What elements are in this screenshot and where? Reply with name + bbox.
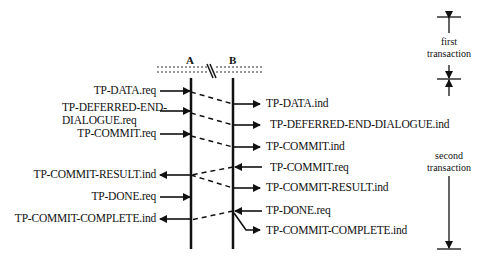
first-transaction-label: first transaction (419, 36, 479, 60)
label-tp-deferred-end-dialogue-ind: TP-DEFERRED-END-DIALOGUE.ind (270, 118, 449, 131)
label-tp-commit-req-right: TP-COMMIT.req (270, 161, 349, 174)
label-tp-data-req: TP-DATA.req (94, 84, 156, 97)
label-tp-done-req-left: TP-DONE.req (91, 190, 156, 203)
label-tp-commit-complete-ind-right: TP-COMMIT-COMPLETE.ind (266, 224, 407, 237)
right-arrows (234, 104, 262, 230)
second-transaction-label: second transaction (419, 150, 479, 174)
label-tp-commit-result-ind-right: TP-COMMIT-RESULT.ind (266, 181, 388, 194)
label-tp-commit-ind: TP-COMMIT.ind (266, 140, 345, 153)
sequence-diagram (0, 0, 486, 268)
label-tp-commit-req-left: TP-COMMIT.req (77, 127, 156, 140)
label-tp-data-ind: TP-DATA.ind (266, 97, 328, 110)
dashed-transfers (191, 92, 233, 220)
label-tp-deferred-end-req-1: TP-DEFERRED-END- (62, 101, 167, 114)
entity-a-label: A (186, 54, 194, 66)
label-tp-deferred-end-req-2: DIALOGUE.req (62, 114, 137, 127)
label-tp-commit-complete-ind-left: TP-COMMIT-COMPLETE.ind (15, 212, 156, 225)
label-tp-done-req-right: TP-DONE.req (266, 204, 331, 217)
entity-b-label: B (229, 54, 236, 66)
break-mark (207, 64, 216, 78)
label-tp-commit-result-ind-left: TP-COMMIT-RESULT.ind (34, 168, 156, 181)
